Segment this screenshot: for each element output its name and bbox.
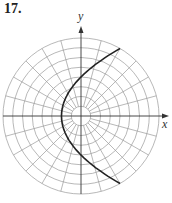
y-axis-label: y [78, 9, 83, 24]
y-arrow-icon [79, 26, 84, 33]
grid-spoke [88, 123, 136, 171]
polar-graph [0, 0, 172, 203]
grid-spoke [26, 61, 74, 109]
grid-spoke [26, 123, 74, 171]
x-axis-label: x [162, 117, 167, 132]
grid-spoke [88, 61, 136, 109]
